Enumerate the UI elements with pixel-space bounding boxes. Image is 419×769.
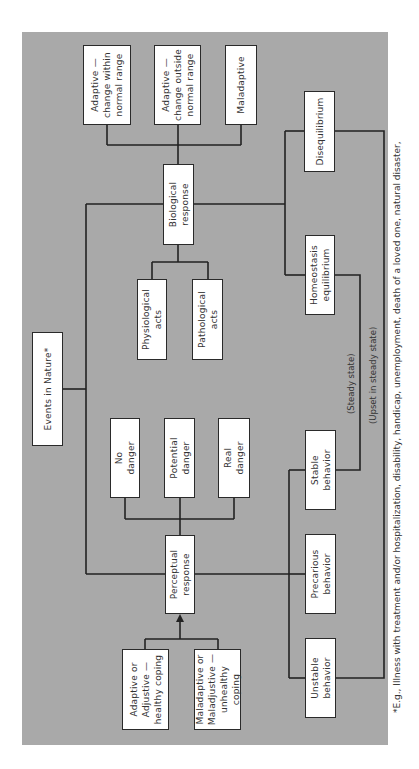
footnote: *E.g., Illness with treatment and/or hos… — [392, 141, 402, 713]
maladaptive-box: Maladaptive — [225, 45, 257, 125]
stable-behavior-box: Stable behavior — [305, 430, 336, 510]
precarious-behavior-box: Precarious behavior — [305, 534, 336, 614]
maladaptive-coping-box: Maladaptive or Maladjustive — unhealthy … — [194, 649, 241, 730]
rotated-diagram: Events in Nature* Perceptual response No… — [0, 0, 419, 769]
physiological-acts-box: Physiological acts — [137, 279, 167, 360]
no-danger-box: No danger — [110, 418, 140, 498]
disequilibrium-box: Disequilibrium — [304, 91, 335, 172]
biological-response-box: Biological response — [163, 164, 194, 245]
events-in-nature-box: Events in Nature* — [32, 332, 63, 446]
real-danger-box: Real danger — [218, 418, 250, 498]
arrowhead-icon — [176, 614, 184, 622]
pathological-acts-box: Pathological acts — [192, 279, 223, 360]
perceptual-response-box: Perceptual response — [165, 535, 195, 614]
upset-steady-state-label: (Upset in steady state) — [368, 327, 378, 424]
potential-danger-box: Potential danger — [164, 418, 195, 498]
homeostasis-equilibrium-box: Homeostasis equilibrium — [305, 235, 335, 315]
adaptive-within-range-box: Adaptive — change within normal range — [83, 45, 131, 125]
adaptive-outside-range-box: Adaptive — change outside normal range — [154, 45, 201, 125]
steady-state-label: (Steady state) — [346, 354, 356, 414]
adaptive-coping-box: Adaptive or Adjustive — healthy coping — [122, 649, 169, 730]
unstable-behavior-box: Unstable behavior — [305, 638, 336, 718]
